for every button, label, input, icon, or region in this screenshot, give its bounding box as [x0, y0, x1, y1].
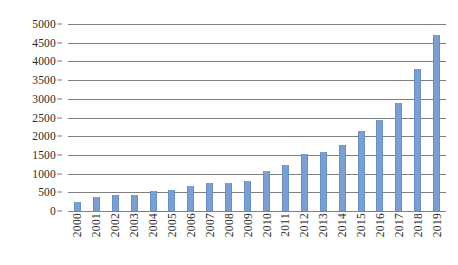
x-axis-tick-label: 2009: [242, 213, 254, 237]
y-axis-tick-mark: [57, 80, 62, 81]
x-axis-tick-label: 2017: [393, 213, 405, 237]
y-axis-tick-label: 3500: [32, 74, 56, 86]
x-axis-slot: 2004: [144, 213, 163, 257]
y-axis-tick-mark: [57, 136, 62, 137]
y-axis-tick-mark: [57, 42, 62, 43]
y-axis: 0500100015002000250030003500400045005000: [0, 24, 62, 211]
bar-slot: [314, 24, 333, 211]
x-axis-slot: 2005: [163, 213, 182, 257]
plot-area: [68, 24, 446, 211]
bar-slot: [371, 24, 390, 211]
x-axis-slot: 2009: [238, 213, 257, 257]
x-axis-slot: 2006: [181, 213, 200, 257]
bar: [112, 195, 119, 211]
y-axis-tick-label: 4500: [32, 37, 56, 49]
bar-chart: 0500100015002000250030003500400045005000…: [0, 0, 458, 265]
x-axis-tick-label: 2006: [185, 213, 197, 237]
x-axis-tick-label: 2005: [166, 213, 178, 237]
x-axis-slot: 2015: [352, 213, 371, 257]
x-axis-slot: 2003: [125, 213, 144, 257]
x-axis-tick-label: 2012: [298, 213, 310, 237]
x-axis-tick-label: 2018: [412, 213, 424, 237]
x-axis-tick-label: 2019: [431, 213, 443, 237]
bar-slot: [408, 24, 427, 211]
x-axis-tick-label: 2008: [223, 213, 235, 237]
bar: [93, 197, 100, 211]
x-axis-slot: 2011: [276, 213, 295, 257]
bar-slot: [163, 24, 182, 211]
bar: [376, 120, 383, 211]
bar-slot: [238, 24, 257, 211]
bar-slot: [87, 24, 106, 211]
y-axis-tick-mark: [57, 192, 62, 193]
y-axis-tick-label: 500: [38, 186, 56, 198]
x-axis-slot: 2002: [106, 213, 125, 257]
bar: [263, 171, 270, 211]
y-axis-tick-label: 2000: [32, 130, 56, 142]
x-axis-slot: 2001: [87, 213, 106, 257]
y-axis-tick-label: 1500: [32, 149, 56, 161]
bar: [414, 69, 421, 211]
bar-slot: [219, 24, 238, 211]
bar: [301, 154, 308, 211]
bar: [244, 181, 251, 211]
x-axis-slot: 2016: [371, 213, 390, 257]
bar: [358, 131, 365, 211]
x-axis-tick-label: 2010: [261, 213, 273, 237]
y-axis-tick-mark: [57, 24, 62, 25]
bar-slot: [181, 24, 200, 211]
x-axis-tick-label: 2014: [336, 213, 348, 237]
bar-slot: [144, 24, 163, 211]
y-axis-tick-mark: [57, 61, 62, 62]
y-axis-tick-label: 3000: [32, 93, 56, 105]
x-axis-slot: 2017: [389, 213, 408, 257]
bar: [187, 186, 194, 211]
bars-container: [68, 24, 446, 211]
y-axis-tick-mark: [57, 211, 62, 212]
y-axis-tick-mark: [57, 173, 62, 174]
bar-slot: [68, 24, 87, 211]
bar-slot: [333, 24, 352, 211]
bar-slot: [257, 24, 276, 211]
y-axis-tick-mark: [57, 154, 62, 155]
bar: [320, 152, 327, 211]
x-axis-tick-label: 2016: [374, 213, 386, 237]
bar-slot: [352, 24, 371, 211]
bar-slot: [427, 24, 446, 211]
x-axis-tick-label: 2011: [279, 213, 291, 237]
bar-slot: [125, 24, 144, 211]
bar: [395, 103, 402, 211]
x-axis-slot: 2012: [295, 213, 314, 257]
bar-slot: [389, 24, 408, 211]
bar: [225, 183, 232, 211]
bar-slot: [295, 24, 314, 211]
bar: [433, 35, 440, 211]
x-axis-slot: 2000: [68, 213, 87, 257]
bar-slot: [200, 24, 219, 211]
x-axis-tick-label: 2000: [71, 213, 83, 237]
bar: [339, 145, 346, 211]
x-axis-slot: 2007: [200, 213, 219, 257]
y-axis-tick-mark: [57, 117, 62, 118]
bar-slot: [276, 24, 295, 211]
y-axis-tick-label: 2500: [32, 112, 56, 124]
x-axis-slot: 2010: [257, 213, 276, 257]
bar-slot: [106, 24, 125, 211]
y-axis-tick-mark: [57, 98, 62, 99]
bar: [131, 195, 138, 211]
bar: [150, 191, 157, 211]
y-axis-tick-label: 4000: [32, 55, 56, 67]
x-axis: 2000200120022003200420052006200720082009…: [68, 213, 446, 257]
x-axis-slot: 2008: [219, 213, 238, 257]
x-axis-tick-label: 2007: [204, 213, 216, 237]
bar: [168, 190, 175, 211]
x-axis-tick-label: 2003: [128, 213, 140, 237]
x-axis-slot: 2014: [333, 213, 352, 257]
gridline: [68, 211, 446, 212]
x-axis-tick-label: 2004: [147, 213, 159, 237]
x-axis-tick-label: 2002: [109, 213, 121, 237]
x-axis-slot: 2019: [427, 213, 446, 257]
bar: [206, 183, 213, 211]
y-axis-tick-label: 0: [50, 205, 56, 217]
x-axis-tick-label: 2015: [355, 213, 367, 237]
